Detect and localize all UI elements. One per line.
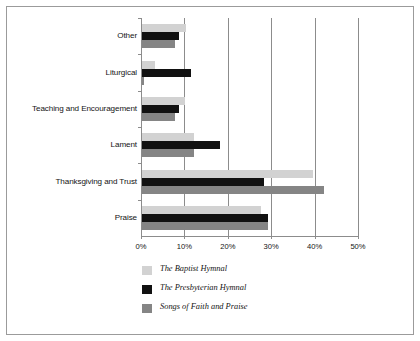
legend-label: Songs of Faith and Praise xyxy=(160,302,247,311)
legend-item[interactable]: The Baptist Hymnal xyxy=(142,262,372,281)
x-tick-label-20: 20% xyxy=(220,242,235,251)
x-tick-label-0: 0% xyxy=(136,242,147,251)
legend-label: The Baptist Hymnal xyxy=(160,264,227,273)
plot-wrapper: PraiseThanksgiving and TrustLamentTeachi… xyxy=(0,0,420,341)
gridline-30 xyxy=(271,18,272,236)
bar xyxy=(142,141,220,149)
y-tick xyxy=(138,200,141,201)
y-axis-label-lament: Lament xyxy=(12,140,137,149)
gridline-10 xyxy=(184,18,185,236)
bar xyxy=(142,32,179,40)
y-tick xyxy=(138,91,141,92)
x-tick-30 xyxy=(271,236,272,239)
bar xyxy=(142,149,194,157)
bar xyxy=(142,222,268,230)
x-tick-label-30: 30% xyxy=(264,242,279,251)
legend-swatch-icon xyxy=(142,285,152,294)
legend-item[interactable]: The Presbyterian Hymnal xyxy=(142,281,372,300)
y-axis-label-teaching-and-encouragement: Teaching and Encouragement xyxy=(12,104,137,113)
y-tick xyxy=(138,18,141,19)
y-axis-label-other: Other xyxy=(12,31,137,40)
x-tick-label-40: 40% xyxy=(307,242,322,251)
bar xyxy=(142,24,186,32)
bar xyxy=(142,186,324,194)
chart-legend: The Baptist HymnalThe Presbyterian Hymna… xyxy=(142,262,372,319)
bar xyxy=(142,206,261,214)
bar xyxy=(142,69,191,77)
bar xyxy=(142,113,175,121)
bar-group-liturgical xyxy=(142,61,359,85)
legend-swatch-icon xyxy=(142,266,152,275)
y-tick xyxy=(138,127,141,128)
y-axis-label-thanksgiving-and-trust: Thanksgiving and Trust xyxy=(12,177,137,186)
y-tick xyxy=(138,163,141,164)
y-axis-label-liturgical: Liturgical xyxy=(12,68,137,77)
y-axis-line xyxy=(141,18,142,236)
legend-item[interactable]: Songs of Faith and Praise xyxy=(142,300,372,319)
legend-label: The Presbyterian Hymnal xyxy=(160,283,246,292)
x-tick-50 xyxy=(358,236,359,239)
bar xyxy=(142,133,194,141)
bar xyxy=(142,170,313,178)
bar xyxy=(142,77,144,85)
chart-figure: PraiseThanksgiving and TrustLamentTeachi… xyxy=(0,0,420,341)
bar-group-lament xyxy=(142,133,359,157)
bar xyxy=(142,178,264,186)
gridline-40 xyxy=(315,18,316,236)
bar xyxy=(142,61,155,69)
bar xyxy=(142,97,185,105)
x-tick-20 xyxy=(228,236,229,239)
x-tick-label-10: 10% xyxy=(177,242,192,251)
x-tick-label-50: 50% xyxy=(350,242,365,251)
y-axis-category-labels: PraiseThanksgiving and TrustLamentTeachi… xyxy=(12,18,137,236)
bar-group-praise xyxy=(142,206,359,230)
y-tick xyxy=(138,54,141,55)
gridline-50 xyxy=(358,18,359,236)
x-axis-line xyxy=(141,236,358,237)
bar xyxy=(142,105,179,113)
plot-area xyxy=(141,18,358,236)
bar xyxy=(142,40,175,48)
bar-group-other xyxy=(142,24,359,48)
bar-group-thanksgiving-and-trust xyxy=(142,170,359,194)
x-tick-40 xyxy=(315,236,316,239)
y-axis-label-praise: Praise xyxy=(12,213,137,222)
bar xyxy=(142,214,268,222)
gridline-20 xyxy=(228,18,229,236)
bar-group-teaching-and-encouragement xyxy=(142,97,359,121)
x-tick-0 xyxy=(141,236,142,239)
legend-swatch-icon xyxy=(142,304,152,313)
x-tick-10 xyxy=(184,236,185,239)
